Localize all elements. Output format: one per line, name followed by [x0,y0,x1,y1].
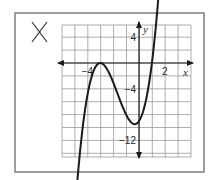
y-tick-label: −4 [125,84,137,95]
y-tick-label: 4 [130,32,136,43]
y-axis-label: y [142,23,148,35]
graph-panel: −424−4−12 x y [0,0,214,180]
y-tick-label: −12 [119,135,136,146]
x-tick-label: 2 [162,66,168,77]
x-axis-label: x [182,66,188,78]
